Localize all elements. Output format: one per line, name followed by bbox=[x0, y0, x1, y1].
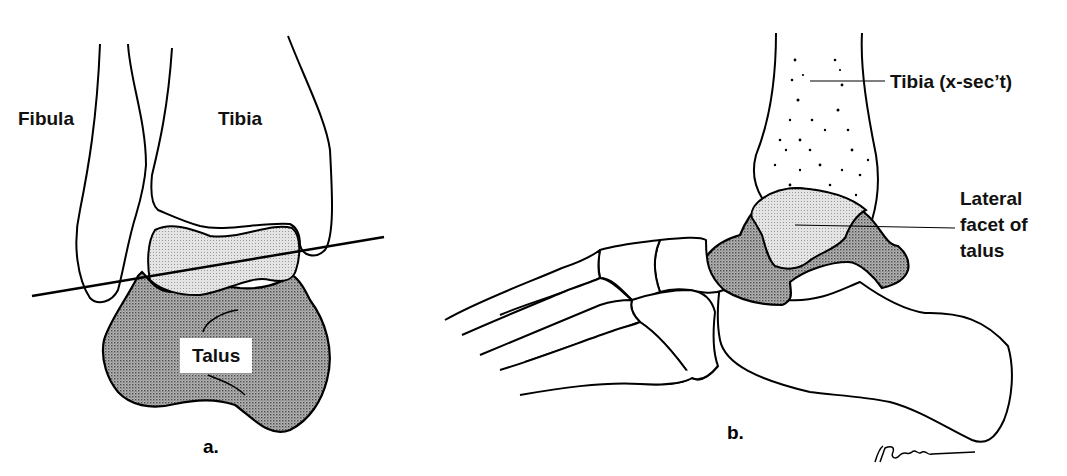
label-lateral-facet-2: facet of bbox=[960, 213, 1028, 236]
label-fibula: Fibula bbox=[18, 107, 74, 130]
panel-a-caption: a. bbox=[203, 436, 219, 458]
panel-b-caption: b. bbox=[727, 422, 744, 444]
label-talus: Talus bbox=[180, 338, 252, 373]
label-lateral-facet-1: Lateral bbox=[960, 187, 1022, 210]
label-tibia: Tibia bbox=[218, 107, 262, 130]
artist-signature bbox=[875, 446, 975, 462]
calcaneus-bone bbox=[718, 282, 1012, 442]
label-lateral-facet-3: talus bbox=[960, 239, 1004, 262]
fibula-bone bbox=[76, 44, 146, 302]
tibia-bone bbox=[151, 36, 332, 255]
label-tibia-xsect: Tibia (x-sec’t) bbox=[890, 70, 1012, 93]
panel-b-foot-lateral bbox=[445, 33, 1012, 462]
